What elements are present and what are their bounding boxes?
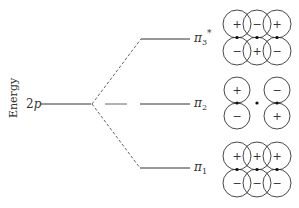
svg-text:+: + bbox=[272, 110, 281, 123]
svg-text:+: + bbox=[252, 45, 261, 58]
svg-text:+: + bbox=[232, 18, 241, 31]
svg-text:−: − bbox=[252, 177, 261, 190]
level-label-pi3: π3* bbox=[193, 28, 212, 47]
mo-energy-diagram: Energy 2p π3* π2 π1 + − + − + − bbox=[0, 0, 299, 208]
svg-text:−: − bbox=[232, 110, 241, 123]
svg-text:+: + bbox=[232, 150, 241, 163]
svg-text:+: + bbox=[272, 18, 281, 31]
atomic-level-label: 2p bbox=[26, 97, 42, 111]
energy-axis-label: Energy bbox=[7, 77, 20, 118]
svg-text:−: − bbox=[252, 18, 261, 31]
level-label-pi2: π2 bbox=[193, 96, 207, 112]
svg-text:−: − bbox=[232, 177, 241, 190]
svg-text:−: − bbox=[272, 45, 281, 58]
connector-pi3 bbox=[92, 39, 141, 104]
svg-text:−: − bbox=[272, 177, 281, 190]
level-label-pi1: π1 bbox=[193, 160, 207, 176]
connector-pi1 bbox=[92, 104, 140, 168]
svg-text:−: − bbox=[232, 45, 241, 58]
svg-text:+: + bbox=[272, 150, 281, 163]
svg-text:−: − bbox=[272, 84, 281, 97]
svg-text:+: + bbox=[232, 84, 241, 97]
svg-text:+: + bbox=[252, 150, 261, 163]
